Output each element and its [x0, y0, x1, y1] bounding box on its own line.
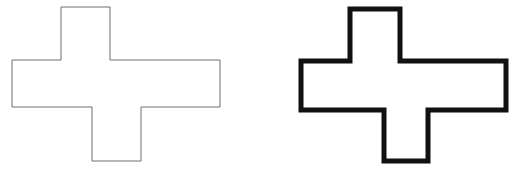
figure-canvas	[0, 0, 523, 173]
cross-outline-thin[interactable]	[12, 7, 220, 161]
cross-outline-thick[interactable]	[301, 9, 506, 161]
shapes-svg	[0, 0, 523, 173]
